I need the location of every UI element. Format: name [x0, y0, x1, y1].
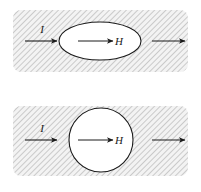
- top-panel-canvas: I H: [0, 0, 201, 96]
- bottom-panel: I H: [0, 96, 201, 192]
- top-panel: I H: [0, 0, 201, 96]
- bottom-panel-canvas: I H: [0, 96, 201, 192]
- field-label-center: H: [114, 35, 124, 47]
- physics-field-diagram: I H I H: [0, 0, 201, 192]
- field-label-center: H: [114, 134, 124, 146]
